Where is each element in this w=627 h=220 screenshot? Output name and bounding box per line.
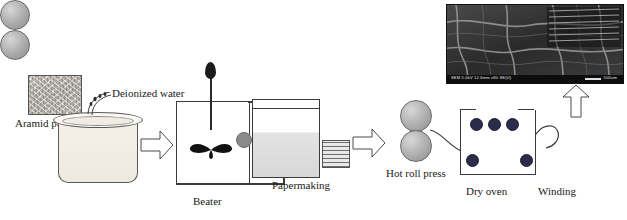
pulp-beaker-inner-rim	[62, 116, 134, 126]
dry-oven-label: Dry oven	[466, 186, 507, 197]
pulp-beaker-body	[58, 120, 138, 183]
dry-oven-roller	[466, 154, 479, 167]
dry-oven-roller	[488, 118, 501, 131]
dry-oven-roller	[520, 154, 533, 167]
beater-label: Beater	[193, 196, 222, 207]
beater-impeller-blades	[188, 140, 234, 160]
winding-upper-roller	[0, 0, 30, 30]
deionized-water-label: Deionized water	[112, 88, 184, 99]
dry-oven-roller	[470, 118, 483, 131]
deionized-water-spray-icon	[86, 92, 112, 116]
sem-caption: SEM 5.0kV 12.6mm x80 SE(U)	[451, 75, 511, 80]
dry-oven-roller	[506, 118, 519, 131]
beater-feed-droplet-icon	[205, 62, 216, 79]
hot-roll-press-label: Hot roll press	[386, 168, 446, 179]
process-flow-diagram: Aramid pulp Deionized water Beat	[0, 0, 627, 220]
arrow-winding-to-sem	[562, 84, 590, 118]
papermaking-label: Papermaking	[272, 180, 330, 191]
winding-label: Winding	[538, 186, 576, 197]
sem-micrograph: SEM 5.0kV 12.6mm x80 SE(U) 500um	[446, 4, 624, 84]
aramid-pulp-swatch	[28, 75, 82, 115]
beater-outlet-pipe-bottom	[176, 183, 284, 185]
beater-valve-knob	[236, 132, 252, 148]
hot-roll-press-lower-roller	[400, 130, 432, 162]
hot-roll-press-upper-roller	[400, 100, 432, 132]
winding-lower-roller	[0, 30, 30, 60]
papermaking-tank	[252, 108, 320, 178]
arrow-pulp-to-beater	[140, 130, 174, 160]
sem-scalebar-label: 500um	[604, 75, 617, 80]
